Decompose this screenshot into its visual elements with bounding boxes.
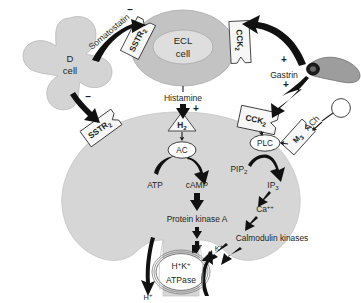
plus-sign-gastrin-ecl: + <box>281 54 287 65</box>
d-cell: D cell <box>23 16 112 109</box>
signaling-diagram: D cell ECL cell SSTR2 CCK <box>0 0 361 303</box>
proton-efflux: H+ <box>141 237 155 302</box>
svg-text:K+: K+ <box>215 243 224 253</box>
ecl-cell-name: ECL <box>174 35 192 46</box>
ip3-sub: 3 <box>275 184 279 191</box>
ac-label: AC <box>176 146 187 155</box>
ecl-cell: ECL cell <box>131 10 235 86</box>
enzyme-plc: PLC <box>250 135 280 151</box>
diagram-canvas: D cell ECL cell SSTR2 CCK <box>0 0 361 303</box>
ecl-cell-subtitle: cell <box>176 48 190 59</box>
arrow-somatostatin-to-parietal: – <box>70 91 100 123</box>
svg-text:H+: H+ <box>144 292 153 302</box>
d-cell-subtitle: cell <box>63 65 77 76</box>
camp-label: cAMP <box>186 180 209 190</box>
pump-k-sup: + <box>187 261 191 267</box>
calcium-base: Ca <box>256 204 267 214</box>
cck2-ecl-base: CCK <box>234 29 245 47</box>
atp-label: ATP <box>147 180 163 190</box>
plc-label: PLC <box>257 139 273 148</box>
potassium-influx: K+ <box>201 243 224 296</box>
calmodulin-kinases-label: Calmodulin kinases <box>236 233 309 243</box>
potassium-in-sup: + <box>220 243 224 249</box>
pump-atpase-label: ATPase <box>166 275 196 285</box>
minus-sign-somatostatin-parietal: – <box>85 91 91 102</box>
proton-out-sup: + <box>149 292 153 298</box>
plus-sign-histamine: + <box>193 103 199 114</box>
ach-label: ACh <box>302 113 321 132</box>
h2-sub: 2 <box>183 124 187 131</box>
minus-sign-somatostatin-ecl: – <box>127 4 133 15</box>
arrow-gastrin-to-parietal: + <box>271 76 309 118</box>
pip2-sub: 2 <box>244 168 248 175</box>
g-cell <box>307 57 360 83</box>
protein-kinase-a-label: Protein kinase A <box>167 214 228 224</box>
pip2-base: PIP <box>231 164 245 174</box>
calcium-sup: ++ <box>267 204 275 210</box>
histamine-label: Histamine <box>164 93 202 103</box>
arrow-gastrin-to-ecl: Gastrin + <box>242 15 306 80</box>
plus-sign-gastrin-parietal: + <box>283 79 289 90</box>
ach-ligand: ACh <box>302 99 350 133</box>
enzyme-ac: AC <box>168 142 196 158</box>
d-cell-name: D <box>67 53 74 64</box>
svg-text:ACh: ACh <box>302 113 321 132</box>
